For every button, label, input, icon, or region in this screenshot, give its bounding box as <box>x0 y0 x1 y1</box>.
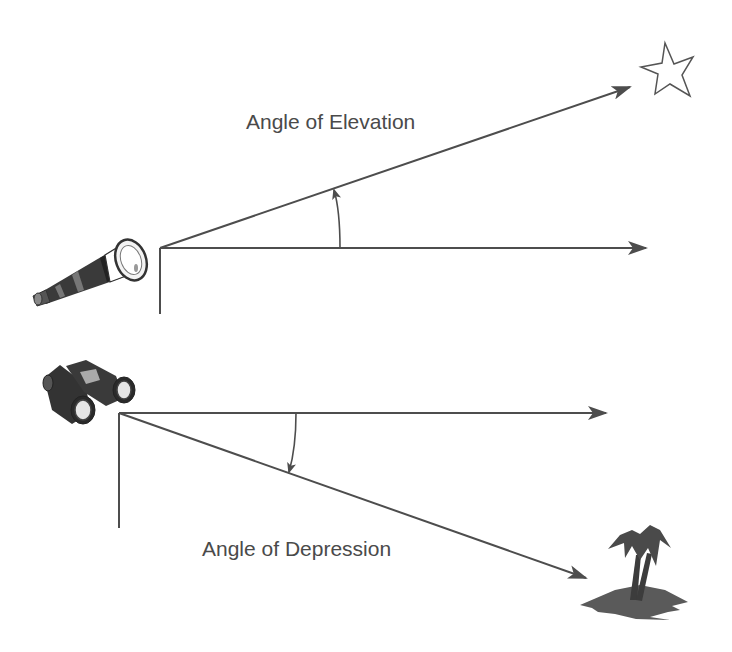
palm-island-icon <box>580 525 688 620</box>
angle-of-elevation-label: Angle of Elevation <box>246 110 415 134</box>
telescope-icon <box>33 235 152 306</box>
angle-of-depression-label: Angle of Depression <box>202 537 391 561</box>
angle-diagram: Angle of Elevation Angle of Depression <box>0 0 732 652</box>
star-icon <box>641 43 693 96</box>
elevation-angle-arc <box>334 190 340 248</box>
depression-angle-arc <box>289 413 296 472</box>
